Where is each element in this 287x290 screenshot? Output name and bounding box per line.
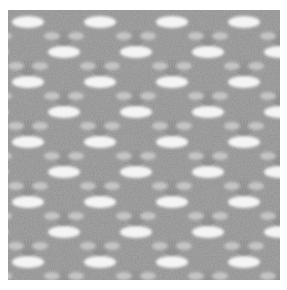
lace-hole xyxy=(120,46,152,58)
lace-small-hole xyxy=(224,62,240,70)
crochet-lace-photo xyxy=(8,10,280,280)
lace-small-hole xyxy=(116,212,132,220)
lace-small-hole xyxy=(152,182,168,190)
lace-small-hole xyxy=(104,242,120,250)
lace-hole xyxy=(156,16,188,28)
lace-small-hole xyxy=(176,62,192,70)
lace-small-hole xyxy=(44,32,60,40)
lace-small-hole xyxy=(224,242,240,250)
lace-small-hole xyxy=(248,62,264,70)
lace-hole xyxy=(12,76,44,88)
lace-hole xyxy=(48,166,80,178)
lace-small-hole xyxy=(212,92,228,100)
lace-hole xyxy=(156,256,188,268)
lace-small-hole xyxy=(116,152,132,160)
lace-small-hole xyxy=(104,122,120,130)
lace-small-hole xyxy=(44,152,60,160)
lace-hole xyxy=(192,106,224,118)
lace-small-hole xyxy=(8,182,24,190)
lace-hole xyxy=(84,256,116,268)
lace-small-hole xyxy=(212,272,228,280)
lace-hole xyxy=(228,196,260,208)
lace-small-hole xyxy=(260,32,276,40)
lace-hole xyxy=(48,226,80,238)
lace-small-hole xyxy=(116,92,132,100)
lace-hole xyxy=(12,196,44,208)
lace-hole xyxy=(84,196,116,208)
lace-small-hole xyxy=(188,212,204,220)
lace-small-hole xyxy=(188,152,204,160)
lace-small-hole xyxy=(44,212,60,220)
lace-hole xyxy=(228,76,260,88)
lace-small-hole xyxy=(212,212,228,220)
lace-hole xyxy=(228,16,260,28)
lace-small-hole xyxy=(104,62,120,70)
lace-small-hole xyxy=(188,272,204,280)
lace-small-hole xyxy=(212,152,228,160)
lace-small-hole xyxy=(140,32,156,40)
lace-hole xyxy=(12,136,44,148)
lace-hole xyxy=(120,166,152,178)
lace-hole xyxy=(120,106,152,118)
lace-hole xyxy=(12,256,44,268)
lace-small-hole xyxy=(80,242,96,250)
lace-hole xyxy=(84,16,116,28)
lace-hole xyxy=(192,166,224,178)
lace-hole xyxy=(156,196,188,208)
lace-small-hole xyxy=(80,182,96,190)
lace-small-hole xyxy=(152,62,168,70)
lace-small-hole xyxy=(260,212,276,220)
lace-small-hole xyxy=(260,272,276,280)
lace-small-hole xyxy=(68,212,84,220)
lace-hole xyxy=(48,46,80,58)
lace-small-hole xyxy=(68,92,84,100)
lace-small-hole xyxy=(248,122,264,130)
lace-hole xyxy=(156,76,188,88)
lace-hole xyxy=(12,16,44,28)
lace-small-hole xyxy=(8,122,24,130)
lace-hole xyxy=(192,46,224,58)
lace-small-hole xyxy=(68,152,84,160)
lace-small-hole xyxy=(140,272,156,280)
lace-small-hole xyxy=(212,32,228,40)
lace-small-hole xyxy=(140,92,156,100)
lace-small-hole xyxy=(44,92,60,100)
lace-small-hole xyxy=(260,92,276,100)
lace-small-hole xyxy=(32,182,48,190)
lace-small-hole xyxy=(260,152,276,160)
lace-small-hole xyxy=(116,32,132,40)
lace-hole xyxy=(120,226,152,238)
lace-small-hole xyxy=(32,62,48,70)
lace-small-hole xyxy=(248,182,264,190)
lace-small-hole xyxy=(80,62,96,70)
lace-small-hole xyxy=(68,32,84,40)
lace-small-hole xyxy=(32,242,48,250)
lace-hole xyxy=(228,136,260,148)
lace-small-hole xyxy=(152,122,168,130)
lace-small-hole xyxy=(152,242,168,250)
lace-small-hole xyxy=(8,62,24,70)
lace-small-hole xyxy=(176,182,192,190)
lace-small-hole xyxy=(140,212,156,220)
lace-small-hole xyxy=(176,242,192,250)
lace-small-hole xyxy=(44,272,60,280)
lace-hole xyxy=(228,256,260,268)
lace-small-hole xyxy=(188,32,204,40)
lace-small-hole xyxy=(8,242,24,250)
lace-hole xyxy=(84,76,116,88)
lace-small-hole xyxy=(32,122,48,130)
lace-hole xyxy=(48,106,80,118)
lace-small-hole xyxy=(224,182,240,190)
lace-small-hole xyxy=(104,182,120,190)
lace-small-hole xyxy=(140,152,156,160)
lace-small-hole xyxy=(224,122,240,130)
lace-small-hole xyxy=(188,92,204,100)
lace-small-hole xyxy=(176,122,192,130)
lace-hole xyxy=(156,136,188,148)
lace-hole xyxy=(84,136,116,148)
lace-hole xyxy=(192,226,224,238)
lace-small-hole xyxy=(248,242,264,250)
lace-small-hole xyxy=(116,272,132,280)
lace-small-hole xyxy=(80,122,96,130)
lace-small-hole xyxy=(68,272,84,280)
